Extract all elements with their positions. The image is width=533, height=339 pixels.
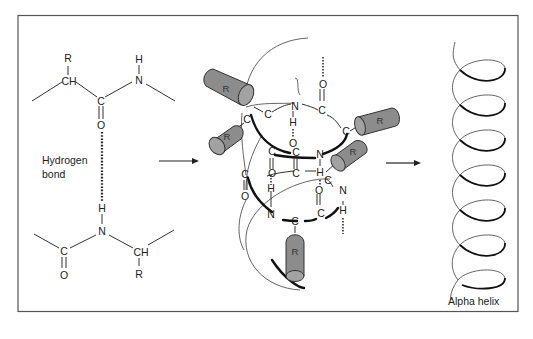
atom-c: C: [268, 145, 276, 157]
svg-text:R: R: [224, 131, 231, 142]
atom-c: C: [342, 125, 350, 137]
atom-n: N: [135, 74, 143, 86]
atom-o: O: [319, 78, 327, 90]
upper-peptide-residue: R CH C O N H: [32, 52, 175, 131]
atom-ch: CH: [133, 246, 148, 258]
atom-c: C: [97, 95, 105, 107]
svg-text:R: R: [292, 246, 299, 257]
atom-r: R: [64, 52, 72, 64]
arrow-right-icon: [159, 158, 199, 164]
atom-o: O: [268, 167, 276, 179]
hydrogen-bond-label-line2: bond: [42, 168, 66, 180]
atom-r: R: [135, 268, 143, 280]
atom-o: O: [97, 119, 105, 131]
alpha-helix-caption: Alpha helix: [448, 295, 500, 307]
svg-text:R: R: [377, 115, 384, 126]
atom-h: H: [339, 204, 347, 216]
atom-o: O: [315, 184, 323, 196]
atom-h: H: [316, 166, 324, 178]
atom-h: H: [267, 182, 275, 194]
atom-c: C: [241, 168, 249, 180]
atom-n: N: [98, 225, 106, 237]
alpha-helix-diagram: R CH C O N H Hydrogen bond H N C O CH R: [0, 0, 533, 339]
svg-text:R: R: [223, 83, 230, 94]
atom-h: H: [289, 116, 297, 128]
arrow-right-icon: [386, 160, 421, 166]
svg-text:R: R: [350, 146, 357, 157]
atom-n: N: [339, 184, 347, 196]
side-chain-cylinder: R: [353, 108, 400, 136]
atom-c: C: [291, 215, 299, 227]
atom-h: H: [135, 53, 143, 65]
atom-c: C: [292, 146, 300, 158]
side-chain-cylinder: R: [204, 69, 257, 108]
side-chain-cylinder: R: [206, 126, 244, 158]
alpha-helix-spiral: [451, 42, 505, 300]
atom-c: C: [317, 207, 325, 219]
side-chain-cylinder: R: [328, 140, 367, 173]
atom-c: C: [60, 245, 68, 257]
atom-c: C: [264, 108, 272, 120]
atom-o: O: [60, 269, 68, 281]
atom-c: C: [292, 167, 300, 179]
side-chain-cylinder: R: [286, 235, 304, 282]
figure-frame: [18, 16, 518, 312]
atom-ch: CH: [61, 75, 76, 87]
atom-n: N: [316, 148, 324, 160]
helix-backbone-model: O C N C H C C O C C N O C H C C O N H O …: [204, 38, 400, 290]
atom-c: C: [318, 104, 326, 116]
atom-c: C: [243, 113, 251, 125]
lower-peptide-residue: H N C O CH R: [34, 202, 174, 281]
atom-n: N: [291, 100, 299, 112]
hydrogen-bond-label-line1: Hydrogen: [42, 154, 88, 166]
atom-c: C: [324, 174, 332, 186]
atom-n: N: [267, 208, 275, 220]
atom-h: H: [98, 202, 106, 214]
atom-o: O: [241, 190, 249, 202]
